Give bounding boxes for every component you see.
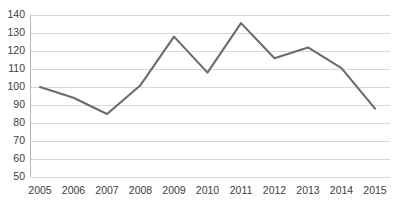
line-chart: 5060708090100110120130140 20052006200720… <box>0 0 398 211</box>
y-axis-tick-label: 90 <box>13 98 25 110</box>
y-axis-tick-label: 110 <box>8 62 25 74</box>
x-axis-tick-label: 2015 <box>363 184 387 196</box>
x-axis-tick-label: 2009 <box>162 184 186 196</box>
x-axis-tick-label: 2008 <box>129 184 153 196</box>
x-axis-tick-label: 2005 <box>28 184 52 196</box>
y-axis-tick-label: 60 <box>13 152 25 164</box>
x-axis-tick-label: 2006 <box>62 184 86 196</box>
x-axis-tick-labels: 2005200620072008200920102011201220132014… <box>28 184 387 196</box>
x-axis-tick-label: 2011 <box>230 184 253 196</box>
x-axis-tick-label: 2012 <box>263 184 287 196</box>
chart-canvas: 5060708090100110120130140 20052006200720… <box>0 0 398 211</box>
y-axis-tick-label: 120 <box>7 44 25 56</box>
x-axis-tick-label: 2014 <box>330 184 354 196</box>
y-axis-tick-label: 70 <box>13 134 25 146</box>
y-axis-tick-label: 50 <box>13 170 25 182</box>
x-axis-tick-label: 2007 <box>95 184 119 196</box>
x-axis-tick-label: 2013 <box>296 184 320 196</box>
y-axis-tick-label: 130 <box>7 26 25 38</box>
x-axis-tick-label: 2010 <box>196 184 220 196</box>
y-axis-tick-label: 100 <box>7 80 25 92</box>
y-axis-tick-label: 80 <box>13 116 25 128</box>
y-axis-tick-label: 140 <box>7 8 25 20</box>
